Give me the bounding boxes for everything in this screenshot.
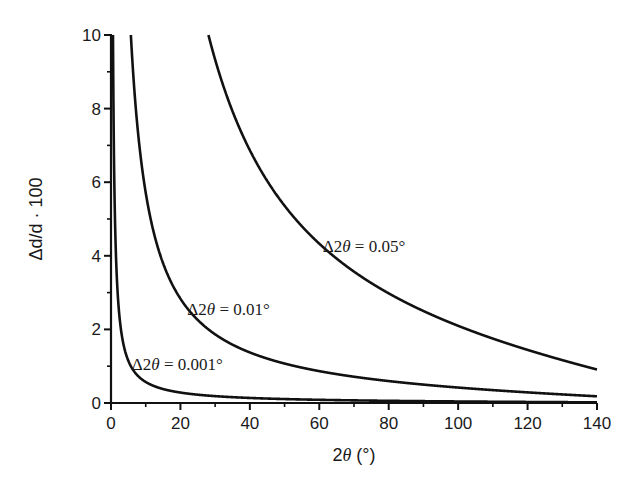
y-tick-label: 8: [92, 100, 101, 119]
y-tick-label: 6: [92, 173, 101, 192]
curve-series-0: [113, 35, 597, 402]
x-tick-label: 140: [583, 414, 611, 433]
y-tick-label: 0: [92, 394, 101, 413]
y-tick-label: 10: [82, 26, 101, 45]
y-tick-label: 2: [92, 320, 101, 339]
x-tick-label: 120: [513, 414, 541, 433]
curve-series-2: [208, 35, 597, 370]
chart: 0204060801001201400246810 Δ2θ = 0.001°Δ2…: [0, 0, 641, 500]
x-tick-label: 80: [379, 414, 398, 433]
x-axis-title: 2θ (°): [332, 445, 375, 465]
y-axis-title: Δd/d · 100: [26, 177, 46, 260]
x-tick-label: 20: [171, 414, 190, 433]
series-label-0: Δ2θ = 0.001°: [132, 355, 223, 374]
series-label-2: Δ2θ = 0.05°: [323, 237, 405, 256]
curves: [113, 35, 597, 402]
annotations: Δ2θ = 0.001°Δ2θ = 0.01°Δ2θ = 0.05°: [132, 237, 405, 374]
x-tick-label: 60: [310, 414, 329, 433]
y-tick-label: 4: [92, 247, 101, 266]
curve-series-1: [131, 35, 597, 396]
x-tick-label: 0: [106, 414, 115, 433]
x-tick-label: 40: [240, 414, 259, 433]
series-label-1: Δ2θ = 0.01°: [187, 300, 269, 319]
x-tick-label: 100: [444, 414, 472, 433]
